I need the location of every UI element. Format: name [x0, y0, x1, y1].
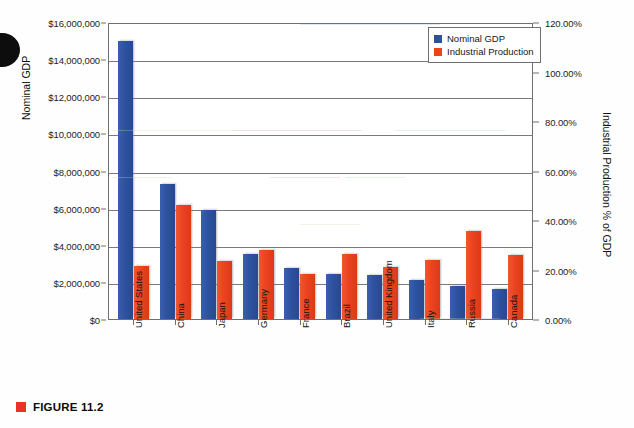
right-axis-tick-label: 80.00% — [545, 117, 577, 128]
left-axis-tick-label: $6,000,000 — [53, 203, 100, 214]
left-axis-tick-label: $16,000,000 — [48, 18, 100, 29]
bar-group — [279, 24, 321, 319]
right-axis-title: Industrial Production % of GDP — [601, 112, 613, 257]
x-axis-category: Germany — [237, 320, 279, 412]
x-axis-tick-label: United Kingdom — [383, 260, 394, 328]
bar-nominal-gdp — [160, 184, 175, 319]
x-axis-category: Japan — [195, 320, 237, 412]
x-axis-category: Russia — [446, 320, 488, 412]
x-axis-category: United States — [112, 320, 154, 412]
bar-group — [238, 24, 280, 319]
left-axis-tick-label: $0 — [90, 315, 100, 326]
bar-nominal-gdp — [492, 289, 507, 319]
figure-page: $0$2,000,000$4,000,000$6,000,000$8,000,0… — [0, 0, 634, 428]
left-axis-tick-mark — [101, 208, 106, 209]
left-axis-tick-label: $2,000,000 — [53, 277, 100, 288]
bar-nominal-gdp — [201, 210, 216, 319]
chart-legend: Nominal GDPIndustrial Production — [428, 27, 541, 63]
left-axis-tick-mark — [101, 320, 106, 321]
left-axis-tick-mark — [101, 60, 106, 61]
x-axis-category: Italy — [404, 320, 446, 412]
bar-nominal-gdp — [450, 286, 465, 319]
left-axis-tick-mark — [101, 282, 106, 283]
right-axis-tick-mark — [533, 72, 539, 73]
left-axis-tick-mark — [101, 134, 106, 135]
left-axis-tick-mark — [101, 23, 106, 24]
left-axis-tick-label: $14,000,000 — [48, 55, 100, 66]
bar-group — [445, 24, 487, 319]
legend-item: Nominal GDP — [434, 32, 534, 45]
left-axis-tick-mark — [101, 171, 106, 172]
left-axis-title: Nominal GDP — [20, 56, 32, 120]
scan-artifact-blob — [0, 33, 20, 67]
left-axis-tick-mark — [101, 245, 106, 246]
right-axis-tick-label: 0.00% — [545, 315, 571, 326]
x-axis-tick-label: Italy — [425, 311, 436, 328]
x-axis-tick-label: Germany — [258, 289, 269, 328]
left-axis-tick-label: $12,000,000 — [48, 92, 100, 103]
legend-color-swatch — [434, 35, 442, 43]
left-axis-tick-label: $10,000,000 — [48, 129, 100, 140]
right-axis-tick-label: 40.00% — [545, 216, 577, 227]
right-axis-tick-mark — [533, 221, 539, 222]
x-axis-tick-label: Canada — [508, 295, 519, 328]
legend-item: Industrial Production — [434, 45, 534, 58]
x-axis-tick-label: Brazil — [341, 304, 352, 328]
x-axis-category-labels: United StatesChinaJapanGermanyFranceBraz… — [108, 320, 533, 412]
right-axis-tick-label: 120.00% — [545, 18, 582, 29]
legend-item-label: Nominal GDP — [447, 33, 505, 44]
left-axis-tick-mark — [101, 97, 106, 98]
right-axis-tick-label: 100.00% — [545, 67, 582, 78]
x-axis-category: Brazil — [321, 320, 363, 412]
chart-plot-area — [108, 23, 533, 320]
right-axis-tick-label: 60.00% — [545, 166, 577, 177]
right-axis-tick-mark — [533, 270, 539, 271]
legend-color-swatch — [434, 48, 442, 56]
x-axis-category: France — [279, 320, 321, 412]
right-axis-tick-label: 20.00% — [545, 265, 577, 276]
x-axis-category: China — [154, 320, 196, 412]
x-axis-category: United Kingdom — [362, 320, 404, 412]
bar-group — [155, 24, 197, 319]
right-axis-tick-mark — [533, 320, 539, 321]
bar-industrial-production — [176, 205, 191, 319]
bar-nominal-gdp — [243, 254, 258, 319]
bar-nominal-gdp — [284, 268, 299, 319]
bar-group — [404, 24, 446, 319]
left-axis-tick-label: $4,000,000 — [53, 240, 100, 251]
x-axis-tick-label: Japan — [216, 302, 227, 328]
x-axis-category: Canada — [487, 320, 529, 412]
figure-caption: FIGURE 11.2 — [16, 401, 104, 413]
x-axis-tick-label: Russia — [466, 299, 477, 328]
bar-nominal-gdp — [326, 274, 341, 319]
bar-group — [196, 24, 238, 319]
x-axis-tick-label: France — [300, 298, 311, 328]
figure-caption-label: FIGURE 11.2 — [33, 401, 104, 413]
right-axis: 0.00%20.00%40.00%60.00%80.00%100.00%120.… — [533, 23, 603, 320]
red-square-marker-icon — [16, 402, 26, 412]
x-axis-tick-label: China — [175, 303, 186, 328]
bar-nominal-gdp — [367, 275, 382, 319]
bar-group — [321, 24, 363, 319]
right-axis-tick-mark — [533, 122, 539, 123]
bar-group — [487, 24, 529, 319]
right-axis-tick-mark — [533, 171, 539, 172]
legend-item-label: Industrial Production — [447, 46, 534, 57]
bar-series-container — [109, 24, 532, 319]
right-axis-tick-mark — [533, 23, 539, 24]
left-axis-tick-label: $8,000,000 — [53, 166, 100, 177]
bar-nominal-gdp — [409, 280, 424, 319]
bar-nominal-gdp — [118, 41, 133, 319]
x-axis-tick-label: United States — [133, 271, 144, 328]
